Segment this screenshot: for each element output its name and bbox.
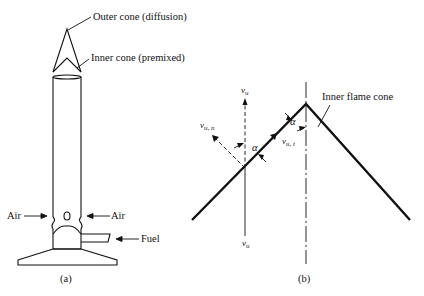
caption-a: (a) <box>60 274 72 285</box>
outer-cone-shape <box>53 29 81 72</box>
vut-label: vu, t <box>282 137 295 148</box>
vu-top-label: vu <box>241 86 249 97</box>
burner-base <box>18 249 117 265</box>
air-hole <box>64 212 70 220</box>
air-right-label: Air <box>111 211 125 222</box>
caption-b: (b) <box>298 274 310 285</box>
inner-flame-cone-label: Inner flame cone <box>322 92 393 103</box>
vun-label: vu, n <box>200 121 215 132</box>
outer-cone-label: Outer cone (diffusion) <box>93 12 187 23</box>
inner-cone-label: Inner cone (premixed) <box>91 53 185 64</box>
bunsen-burner-figure: Outer cone (diffusion) Inner cone (premi… <box>0 0 424 296</box>
air-left-label: Air <box>7 211 21 222</box>
vu-bottom-label: vu <box>242 239 250 250</box>
burner-drawing <box>0 0 424 296</box>
alpha-right-label: α <box>290 117 296 128</box>
fuel-label: Fuel <box>141 234 160 245</box>
inner-flame-cone-lines <box>192 104 410 220</box>
tube-top-ellipse <box>53 75 81 79</box>
alpha-left-label: α <box>252 143 258 154</box>
